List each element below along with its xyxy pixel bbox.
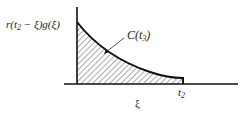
leader-line [106, 38, 124, 52]
y-axis-label: r(t2 − ξ)g(ξ) [6, 18, 60, 32]
area-label: C(t3) [127, 28, 150, 43]
t2-tick-label: t2 [178, 86, 185, 100]
x-axis-label: ξ [135, 97, 140, 109]
